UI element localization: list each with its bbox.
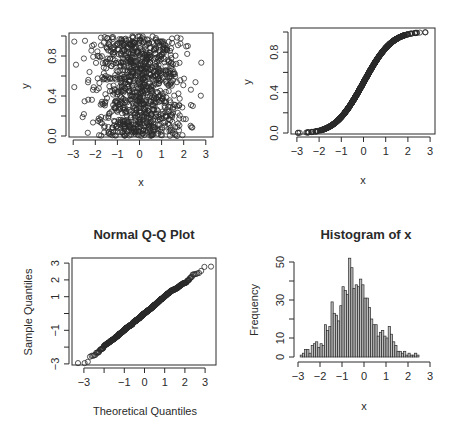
y-axis-label: y — [241, 79, 253, 85]
y-tick-label: 0.4 — [46, 88, 58, 103]
y-tick-label: 1 — [49, 294, 61, 300]
scatter-plot-uniform: −3−2−101230.00.40.8 x y — [19, 33, 213, 188]
y-tick-label: 50 — [274, 256, 286, 268]
chart-canvas: −3−2−101230.00.40.8 x y −3−2−101230.00.4… — [0, 0, 461, 446]
x-tick-label: −3 — [78, 376, 91, 388]
x-tick-label: −2 — [314, 370, 327, 382]
x-tick-label: 0 — [360, 145, 366, 157]
x-tick-label: 3 — [427, 145, 433, 157]
x-tick-label: 3 — [427, 370, 433, 382]
y-tick-label: 30 — [274, 294, 286, 306]
y-tick-label: −3 — [49, 358, 61, 371]
histogram-bar — [417, 355, 419, 357]
x-tick-label: −1 — [335, 145, 348, 157]
y-axis-label: Frequency — [248, 284, 260, 336]
chart-title: Normal Q-Q Plot — [93, 227, 195, 242]
x-axis-label: x — [361, 400, 367, 412]
x-axis-label: x — [138, 176, 144, 188]
qq-plot: Normal Q-Q Plot −3−10123−3−1123 Theoreti… — [22, 227, 216, 417]
chart-title: Histogram of x — [320, 227, 412, 242]
y-tick-label: 3 — [49, 260, 61, 266]
y-axis-label: Sample Quantiles — [22, 268, 34, 355]
x-tick-label: −3 — [292, 370, 305, 382]
y-tick-label: 2 — [49, 277, 61, 283]
x-tick-label: −1 — [118, 376, 131, 388]
y-tick-label: 0 — [274, 354, 286, 360]
x-tick-label: −3 — [67, 148, 80, 160]
x-tick-label: 1 — [383, 370, 389, 382]
axes: −3−2−101230.00.40.8 — [268, 32, 433, 157]
x-tick-label: 1 — [162, 376, 168, 388]
x-tick-label: 2 — [182, 376, 188, 388]
x-tick-label: 0 — [136, 148, 142, 160]
x-axis-label: Theoretical Quantiles — [93, 405, 197, 417]
x-tick-label: 2 — [181, 148, 187, 160]
x-tick-label: 3 — [202, 376, 208, 388]
histogram: Histogram of x −3−2−101230103050 x Frequ… — [248, 227, 433, 412]
histogram-bars — [300, 258, 419, 357]
y-tick-label: 0.8 — [268, 45, 280, 60]
x-tick-label: −3 — [291, 145, 304, 157]
y-tick-label: 0.4 — [268, 85, 280, 100]
x-tick-label: 2 — [405, 145, 411, 157]
scatter-plot-cdf: −3−2−101230.00.40.8 x y — [241, 28, 435, 186]
x-axis-label: x — [360, 174, 366, 186]
x-tick-label: 0 — [141, 376, 147, 388]
x-tick-label: 0 — [361, 370, 367, 382]
scatter-points — [72, 34, 204, 139]
x-tick-label: 1 — [383, 145, 389, 157]
x-tick-label: −1 — [111, 148, 124, 160]
y-tick-label: 0.8 — [46, 48, 58, 63]
x-tick-label: 2 — [405, 370, 411, 382]
x-tick-label: 3 — [203, 148, 209, 160]
x-tick-label: −1 — [336, 370, 349, 382]
y-tick-label: 0.0 — [268, 125, 280, 140]
x-tick-label: 1 — [159, 148, 165, 160]
x-tick-label: −2 — [89, 148, 102, 160]
scatter-points — [295, 30, 428, 136]
y-tick-label: −1 — [49, 324, 61, 337]
qq-points — [75, 264, 213, 366]
y-tick-label: 10 — [274, 332, 286, 344]
y-tick-label: 0.0 — [46, 128, 58, 143]
y-axis-label: y — [19, 83, 31, 89]
x-tick-label: −2 — [313, 145, 326, 157]
